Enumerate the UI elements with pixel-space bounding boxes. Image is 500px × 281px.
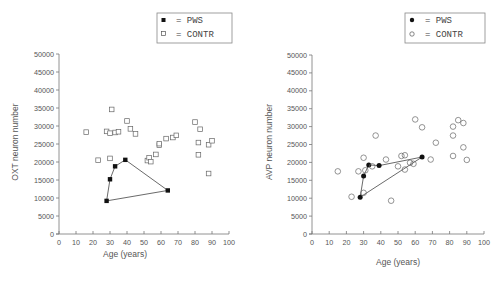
legend-avp: = PWS = CONTR <box>405 13 485 43</box>
y-tick-label: 30000 <box>34 122 54 131</box>
plot-area-avp <box>335 117 470 204</box>
contr-data-point <box>133 132 138 137</box>
contr-data-point <box>193 120 198 125</box>
contr-data-point <box>450 124 456 130</box>
contr-data-point <box>149 159 154 164</box>
y-tick-label: 45000 <box>287 68 307 77</box>
y-tick-label: 10000 <box>287 194 307 203</box>
contr-data-point <box>206 171 211 176</box>
legend-contr-label: = CONTR <box>425 30 463 40</box>
contr-data-point <box>196 140 201 145</box>
x-tick-label: 90 <box>463 238 471 247</box>
contr-data-point <box>125 119 130 124</box>
pws-filled-circle-icon <box>410 18 414 22</box>
contr-data-point <box>402 152 408 158</box>
pws-data-point <box>166 188 170 192</box>
contr-data-point <box>108 131 113 136</box>
contr-data-point <box>109 107 114 112</box>
x-tick-label: 70 <box>428 238 436 247</box>
contr-data-point <box>196 153 201 158</box>
axes-avp: 0500010000150002000025000300003500040000… <box>287 51 490 248</box>
contr-data-point <box>412 117 418 123</box>
x-tick-label: 40 <box>123 238 131 247</box>
y-tick-label: 20000 <box>34 158 54 167</box>
y-tick-label: 15000 <box>34 176 54 185</box>
x-tick-label: 20 <box>342 238 350 247</box>
y-tick-label: 15000 <box>287 176 307 185</box>
x-tick-label: 30 <box>106 238 114 247</box>
x-tick-label: 70 <box>174 238 182 247</box>
x-tick-label: 30 <box>360 238 368 247</box>
contr-data-point <box>356 169 362 175</box>
y-tick-label: 0 <box>303 230 307 239</box>
contr-data-point <box>84 130 89 135</box>
x-tick-label: 80 <box>191 238 199 247</box>
y-tick-label: 45000 <box>34 68 54 77</box>
y-tick-label: 25000 <box>287 140 307 149</box>
pws-data-point <box>123 158 127 162</box>
contr-data-point <box>154 152 159 157</box>
legend-pws-label: = PWS <box>176 16 203 26</box>
pws-data-point <box>377 163 382 168</box>
x-tick-label: 60 <box>411 238 419 247</box>
contr-data-point <box>395 164 401 170</box>
y-tick-label: 30000 <box>287 122 307 131</box>
avp-chart: = PWS = CONTR 05000100001500020000250003… <box>264 13 490 267</box>
contr-data-point <box>433 140 439 146</box>
contr-data-point <box>383 157 389 163</box>
legend-contr-label: = CONTR <box>176 30 214 40</box>
pws-data-point <box>108 177 112 181</box>
x-axis-title-oxt: Age (years) <box>103 249 147 259</box>
x-tick-label: 60 <box>157 238 165 247</box>
x-tick-label: 10 <box>325 238 333 247</box>
plot-area-oxt <box>84 107 214 203</box>
axes-oxt: 0500010000150002000025000300003500040000… <box>34 50 235 248</box>
contr-data-point <box>428 157 434 163</box>
pws-data-point <box>113 164 117 168</box>
contr-data-point <box>174 133 179 138</box>
x-tick-label: 50 <box>394 238 402 247</box>
pws-data-point <box>420 155 425 160</box>
contr-data-point <box>461 120 467 126</box>
pws-data-point <box>104 199 108 203</box>
contr-data-point <box>210 138 215 143</box>
x-tick-label: 20 <box>89 238 97 247</box>
contr-data-point <box>461 145 467 151</box>
x-tick-label: 80 <box>446 238 454 247</box>
contr-data-point <box>450 153 456 159</box>
contr-data-point <box>388 198 394 204</box>
x-axis-title-avp: Age (years) <box>376 257 420 267</box>
contr-data-point <box>108 156 113 161</box>
x-tick-label: 40 <box>377 238 385 247</box>
contr-data-point <box>361 155 367 161</box>
pws-data-point <box>361 174 366 179</box>
contr-data-point <box>450 133 456 139</box>
y-tick-label: 35000 <box>34 104 54 113</box>
contr-data-point <box>419 125 425 131</box>
y-tick-label: 35000 <box>287 104 307 113</box>
contr-data-point <box>96 158 101 163</box>
contr-data-point <box>373 133 379 139</box>
x-tick-label: 90 <box>208 238 216 247</box>
y-tick-label: 40000 <box>34 86 54 95</box>
y-axis-title-avp: AVP neuron number <box>264 104 274 180</box>
contr-data-point <box>198 127 203 132</box>
pws-filled-square-icon <box>162 18 166 22</box>
contr-data-point <box>157 141 162 146</box>
oxt-chart: = PWS = CONTR 05000100001500020000250003… <box>10 13 235 259</box>
y-tick-label: 0 <box>50 230 54 239</box>
y-tick-label: 10000 <box>34 194 54 203</box>
y-tick-label: 25000 <box>34 140 54 149</box>
contr-data-point <box>116 129 121 134</box>
legend-pws-label: = PWS <box>425 16 452 26</box>
y-tick-label: 20000 <box>287 158 307 167</box>
pws-data-point <box>366 162 371 167</box>
y-tick-label: 50000 <box>34 50 54 59</box>
y-tick-label: 5000 <box>291 212 307 221</box>
y-axis-title-oxt: OXT neuron number <box>10 103 20 180</box>
figure-canvas: = PWS = CONTR 05000100001500020000250003… <box>0 0 500 281</box>
x-tick-label: 0 <box>57 238 61 247</box>
x-tick-label: 100 <box>223 238 235 247</box>
x-tick-label: 50 <box>140 238 148 247</box>
x-tick-label: 100 <box>478 238 490 247</box>
